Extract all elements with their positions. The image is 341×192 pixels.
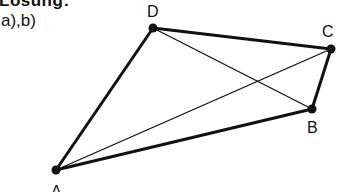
side-ab	[56, 109, 312, 170]
vertex-c	[327, 45, 336, 54]
quadrilateral-diagram: A B C D	[0, 0, 341, 192]
label-b: B	[307, 119, 318, 136]
label-a: A	[51, 183, 62, 192]
side-bc	[312, 49, 331, 109]
label-c: C	[322, 23, 334, 40]
label-d: D	[147, 3, 159, 20]
vertex-a	[52, 166, 61, 175]
vertex-b	[308, 105, 317, 114]
vertex-d	[149, 24, 158, 33]
side-cd	[153, 28, 331, 49]
